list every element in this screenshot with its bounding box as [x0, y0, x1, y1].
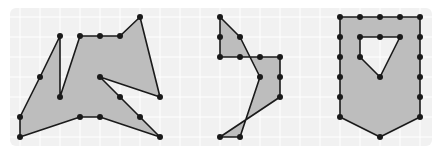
vertex-dot: [57, 33, 63, 39]
vertex-dot: [377, 74, 383, 80]
vertex-dot: [337, 14, 343, 20]
vertex-dot: [237, 54, 243, 60]
vertex-dot: [217, 34, 223, 40]
vertex-dot: [57, 94, 63, 100]
vertex-dot: [17, 114, 23, 120]
vertex-dot: [337, 114, 343, 120]
vertex-dot: [417, 114, 423, 120]
vertex-dot: [77, 33, 83, 39]
vertex-dot: [357, 14, 363, 20]
vertex-dot: [397, 14, 403, 20]
vertex-dot: [237, 134, 243, 140]
vertex-dot: [257, 74, 263, 80]
vertex-dot: [357, 54, 363, 60]
vertex-dot: [417, 34, 423, 40]
vertex-dot: [277, 94, 283, 100]
vertex-dot: [257, 54, 263, 60]
vertex-dot: [417, 74, 423, 80]
vertex-dot: [377, 134, 383, 140]
vertex-dot: [337, 34, 343, 40]
polygon-diagram: [0, 0, 443, 151]
vertex-dot: [217, 14, 223, 20]
vertex-dot: [117, 33, 123, 39]
vertex-dot: [337, 74, 343, 80]
vertex-dot: [117, 94, 123, 100]
vertex-dot: [277, 74, 283, 80]
vertex-dot: [217, 54, 223, 60]
vertex-dot: [357, 34, 363, 40]
vertex-dot: [277, 54, 283, 60]
vertex-dot: [377, 34, 383, 40]
vertex-dot: [137, 114, 143, 120]
vertex-dot: [37, 74, 43, 80]
vertex-dot: [97, 114, 103, 120]
vertex-dot: [337, 94, 343, 100]
vertex-dot: [97, 74, 103, 80]
vertex-dot: [417, 94, 423, 100]
vertex-dot: [77, 114, 83, 120]
vertex-dot: [417, 54, 423, 60]
vertex-dot: [137, 14, 143, 20]
vertex-dot: [157, 134, 163, 140]
vertex-dot: [217, 134, 223, 140]
vertex-dot: [337, 54, 343, 60]
vertex-dot: [377, 14, 383, 20]
vertex-dot: [17, 134, 23, 140]
vertex-dot: [157, 94, 163, 100]
vertex-dot: [417, 14, 423, 20]
vertex-dot: [397, 34, 403, 40]
vertex-dot: [97, 33, 103, 39]
figure-3-shield-with-hole: [337, 14, 423, 140]
vertex-dot: [237, 34, 243, 40]
